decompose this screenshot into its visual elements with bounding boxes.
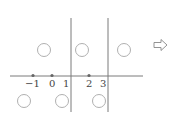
point-2 bbox=[87, 74, 90, 77]
tick-label-0: 0 bbox=[49, 79, 55, 89]
tick-label-2: 2 bbox=[86, 79, 92, 89]
blank-circle-upper-1 bbox=[38, 44, 51, 57]
blank-circle-lower-3 bbox=[93, 95, 106, 108]
tick-label-minus-1: −1 bbox=[25, 79, 40, 89]
hollow-right-arrow-icon bbox=[154, 40, 167, 51]
blank-circle-upper-2 bbox=[76, 44, 89, 57]
blank-circle-lower-2 bbox=[56, 95, 69, 108]
number-line-diagram bbox=[0, 0, 175, 121]
tick-label-1: 1 bbox=[63, 79, 69, 89]
blank-circle-upper-3 bbox=[118, 44, 131, 57]
point-minus-1 bbox=[31, 74, 34, 77]
tick-label-3: 3 bbox=[100, 79, 106, 89]
blank-circle-lower-1 bbox=[18, 95, 31, 108]
point-0 bbox=[50, 74, 53, 77]
